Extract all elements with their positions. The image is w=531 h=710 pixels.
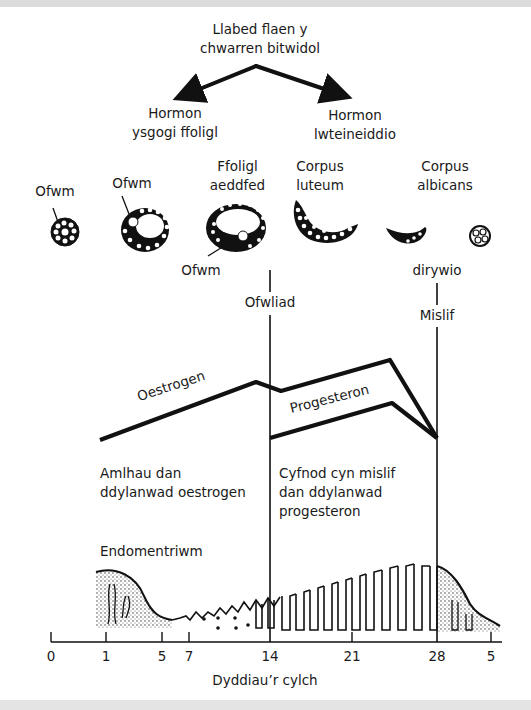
corpus-luteum-line2: luteum (290, 177, 350, 194)
tick-label-5: 5 (152, 648, 172, 665)
fsh-label-line2: ysgogi ffoligl (115, 124, 235, 141)
pituitary-arrows (180, 66, 345, 97)
mature-follicle-line2: aeddfed (205, 177, 270, 194)
ovum-label-3: Ofwm (176, 262, 226, 279)
premenstrual-phase-line3: progesteron (279, 503, 361, 520)
ovulation-label: Ofwliad (238, 294, 302, 311)
corpus-albicans (386, 227, 426, 244)
proliferative-phase-line1: Amlhau dan (100, 465, 181, 482)
ovum-label-1: Ofwm (30, 183, 80, 200)
endometrium-illustration (96, 564, 500, 632)
secondary-follicle (121, 208, 169, 252)
day-axis (51, 632, 502, 642)
corpus-albicans-line1: Corpus (410, 158, 480, 175)
pituitary-title-line2: chwarren bitwidol (185, 40, 335, 57)
mature-follicle-line1: Ffoligl (205, 158, 270, 175)
proliferative-phase-line2: ddylanwad oestrogen (100, 484, 246, 501)
tick-label-0: 0 (41, 648, 61, 665)
corpus-albicans-line2: albicans (410, 177, 480, 194)
bottom-cutoff-band (0, 700, 531, 710)
ovum-label-2: Ofwm (107, 175, 157, 192)
corpus-luteum (294, 200, 358, 243)
tick-label-14: 14 (258, 648, 282, 665)
primary-follicle (51, 218, 79, 246)
tick-label-21: 21 (340, 648, 364, 665)
tick-label-7: 7 (179, 648, 199, 665)
tick-label-5-next: 5 (481, 648, 501, 665)
menstruation-label: Mislif (410, 307, 464, 324)
premenstrual-phase-line2: dan ddylanwad (279, 484, 382, 501)
pituitary-title-line1: Llabed flaen y (200, 21, 320, 38)
lh-label-line1: Hormon (300, 107, 410, 124)
diagram-graphics (0, 0, 531, 710)
mature-follicle (206, 202, 266, 252)
endometrium-label: Endomentriwm (100, 543, 203, 560)
corpus-luteum-line1: Corpus (290, 158, 350, 175)
premenstrual-phase-line1: Cyfnod cyn mislif (279, 465, 395, 482)
degenerates-label: dirywio (405, 262, 469, 279)
tick-label-28: 28 (425, 648, 449, 665)
lh-label-line2: lwteineiddio (295, 126, 415, 143)
axis-label: Dyddiau’r cylch (195, 672, 335, 689)
fsh-label-line1: Hormon (120, 105, 230, 122)
tick-label-1: 1 (96, 648, 116, 665)
degenerated-body (470, 226, 490, 246)
